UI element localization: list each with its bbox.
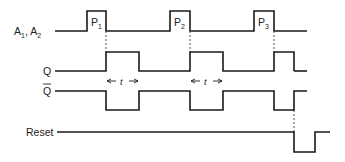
svg-text:t: t — [204, 76, 207, 87]
interval-t-1: t — [107, 76, 138, 87]
label-reset: Reset — [26, 126, 54, 138]
pulse-label-p2: P2 — [174, 16, 185, 30]
pulse-label-p1: P1 — [91, 16, 102, 30]
pulse-label-p3: P3 — [258, 16, 269, 30]
svg-text:t: t — [120, 76, 123, 87]
q-signal-waveform — [55, 52, 294, 71]
qbar-signal-waveform — [55, 91, 307, 110]
label-a1-a2: A1, A2 — [14, 25, 41, 39]
svg-text:Q: Q — [43, 85, 51, 97]
interval-t-2: t — [191, 76, 222, 87]
timing-diagram: A1, A2 Q Q Reset P1 P2 P3 t t — [0, 0, 345, 162]
label-q: Q — [43, 65, 51, 77]
reset-signal-waveform — [57, 132, 330, 152]
label-q-bar: Q — [43, 84, 51, 97]
